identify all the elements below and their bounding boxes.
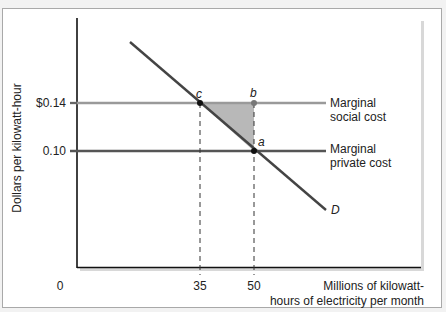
msc-label-line2: social cost [330,110,387,124]
msc-label-line1: Marginal [330,96,376,110]
mpc-label-line2: private cost [330,156,392,170]
point-b [251,100,257,106]
point-c-label: c [196,87,202,101]
x-tick-label-35: 35 [193,279,207,293]
point-b-label: b [250,86,257,100]
chart: c b a D Marginal social cost Marginal pr… [0,0,446,312]
y-tick-label-010: 0.10 [43,144,67,158]
point-a-label: a [258,135,265,149]
mpc-label-line1: Marginal [330,142,376,156]
y-tick-label-014: $0.14 [36,96,66,110]
demand-label: D [331,203,340,217]
x-axis-label-line2: hours of electricity per month [270,294,424,308]
x-tick-label-0: 0 [57,279,64,293]
point-a [251,148,257,154]
x-tick-label-50: 50 [247,279,261,293]
x-axis-label-line1: Millions of kilowatt- [323,279,424,293]
y-axis-label: Dollars per kilowatt-hour [10,83,24,212]
